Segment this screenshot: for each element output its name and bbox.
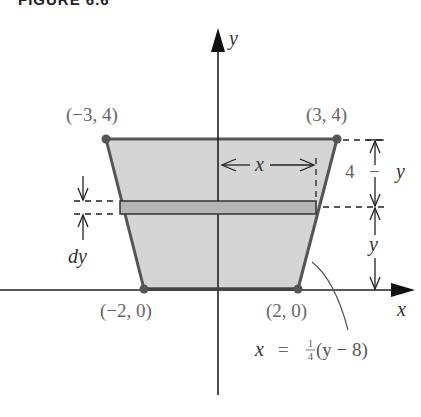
equation-frac-den: 4: [308, 351, 313, 362]
vertex-dot: [140, 285, 149, 294]
dimension-label-y-lower: y: [367, 233, 378, 256]
dimension-label-y-upper: y: [394, 160, 405, 183]
y-axis-label: y: [227, 27, 238, 50]
leader-line: [312, 262, 348, 330]
y-axis-arrow-icon: [211, 28, 225, 52]
horizontal-strip: [120, 201, 316, 214]
vertex-dot: [102, 135, 111, 144]
vertex-label-bottom-left: (−2, 0): [100, 300, 152, 322]
strip-width-label: x: [254, 153, 264, 175]
vertex-dot: [333, 135, 342, 144]
dimension-label-4: 4: [345, 161, 355, 182]
equation-frac-num: 1: [308, 338, 313, 349]
equation-rest: (y − 8): [316, 339, 368, 361]
x-axis-arrow-icon: [391, 283, 415, 297]
diagram-canvas: y x (−3, 4) (3, 4) (−2, 0) (2, 0) x: [0, 0, 421, 417]
equation-lhs: x: [254, 338, 264, 360]
dy-label: dy: [68, 245, 87, 268]
vertex-label-bottom-right: (2, 0): [266, 300, 307, 322]
dimension-label-minus: −: [369, 161, 380, 182]
vertex-dot: [294, 285, 303, 294]
vertex-label-top-right: (3, 4): [306, 104, 347, 126]
figure-caption: FIGURE 6.6: [18, 0, 110, 8]
x-axis-label: x: [396, 298, 406, 320]
equation-equals: =: [278, 339, 289, 360]
trapezoid-figure: FIGURE 6.6 y x (−3, 4) (3, 4) (−2, 0): [0, 0, 421, 417]
vertex-label-top-left: (−3, 4): [66, 104, 118, 126]
